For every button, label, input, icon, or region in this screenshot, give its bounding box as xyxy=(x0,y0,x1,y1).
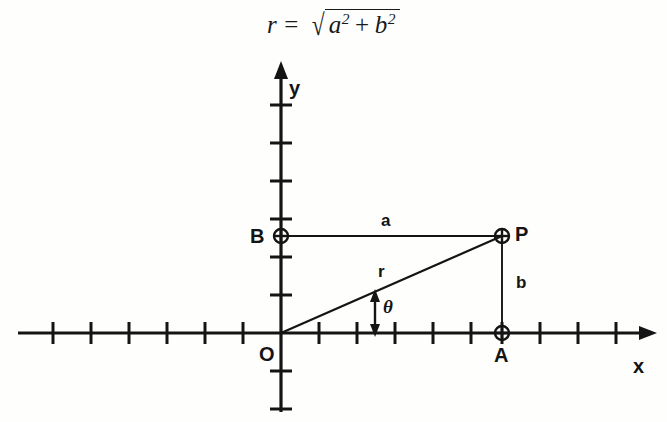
segment-r-line xyxy=(281,236,502,333)
point-label-O: O xyxy=(259,344,275,364)
angle-label-theta: θ xyxy=(383,297,393,316)
y-axis-label: y xyxy=(289,78,300,98)
x-axis-label: x xyxy=(633,356,644,376)
point-label-A: A xyxy=(494,345,508,365)
point-marker-A xyxy=(494,325,510,341)
point-marker-P xyxy=(494,228,510,244)
cartesian-diagram xyxy=(0,0,667,422)
theta-angle-arrow-icon xyxy=(370,289,380,337)
segment-label-a: a xyxy=(381,212,390,229)
figure-page: r=√a2+b2 xyxy=(0,0,667,422)
y-axis-arrowhead-icon xyxy=(274,61,288,79)
segment-label-b: b xyxy=(516,274,526,291)
segment-label-r: r xyxy=(378,263,385,280)
point-label-B: B xyxy=(250,226,264,246)
point-marker-B xyxy=(273,228,289,244)
point-label-P: P xyxy=(515,224,528,244)
x-axis-arrowhead-icon xyxy=(639,326,657,340)
